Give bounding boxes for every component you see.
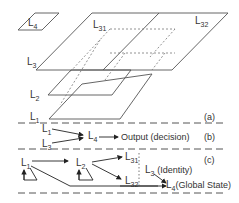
plane-l1 (49, 74, 152, 119)
label-l2: L2 (30, 90, 39, 104)
label-c-l31: L31 (125, 152, 138, 166)
label-l32: L32 (195, 16, 208, 30)
output-decision-label: Output (decision) (121, 132, 190, 142)
label-l31: L31 (93, 20, 106, 34)
label-c-l3-identity: L3 (Identity) (145, 165, 192, 179)
label-l3: L3 (27, 57, 36, 71)
label-b-l1: L1 (42, 124, 51, 138)
label-c-l4-global-state: L4(Global State) (166, 180, 231, 194)
label-c-l2: L2 (76, 158, 85, 172)
label-c-l32: L32 (125, 176, 138, 190)
tag-c: (c) (204, 155, 215, 165)
tag-a: (a) (204, 112, 215, 122)
plane-l4 (18, 13, 59, 30)
label-b-l4: L4 (88, 131, 97, 145)
label-c-l1: L1 (21, 158, 30, 172)
label-b-l3: L3 (42, 139, 51, 153)
tag-b: (b) (204, 132, 215, 142)
label-l4: L4 (28, 18, 37, 32)
label-l1: L1 (30, 112, 39, 126)
